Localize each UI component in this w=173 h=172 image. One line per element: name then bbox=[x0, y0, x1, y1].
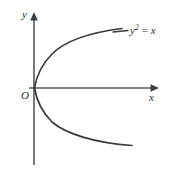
equation-right-side: x bbox=[150, 24, 156, 36]
parabola-lower-branch bbox=[35, 88, 133, 146]
parabola-figure: y x O y2=x bbox=[0, 0, 173, 172]
parabola-upper-branch bbox=[35, 29, 123, 89]
y-axis-label: y bbox=[21, 8, 27, 20]
x-axis-label: x bbox=[148, 91, 154, 103]
y-axis-arrow-icon bbox=[30, 12, 38, 21]
figure-canvas: y x O y2=x bbox=[0, 0, 173, 172]
equation-exponent: 2 bbox=[135, 23, 139, 32]
equation-leader-line bbox=[113, 31, 128, 33]
equation-label: y2=x bbox=[129, 23, 156, 36]
equation-operator: = bbox=[142, 24, 148, 36]
origin-label: O bbox=[21, 89, 29, 101]
